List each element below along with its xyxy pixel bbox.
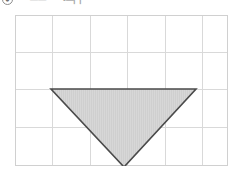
circled-marker-icon: ● [2,0,13,5]
grid-figure-svg [15,15,228,166]
cropped-header-strip: ● —— •—▏▏ [0,0,244,11]
grid-figure [15,15,228,166]
figure-canvas: ● —— •—▏▏ [0,0,244,173]
header-faint-text-right: •—▏▏ [63,0,87,5]
header-faint-text-left: —— [30,0,46,5]
